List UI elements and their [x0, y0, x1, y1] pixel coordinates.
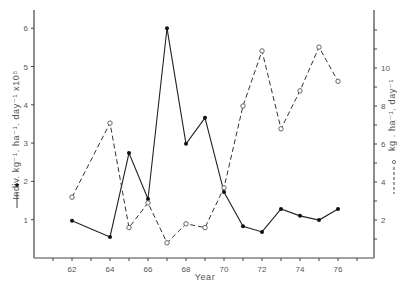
filled-data-point — [165, 26, 169, 30]
filled-data-point — [336, 207, 340, 211]
right-y-tick-label: 10 — [381, 64, 390, 73]
open-data-point — [108, 121, 112, 125]
open-data-point — [222, 186, 226, 190]
right-y-tick-label: 2 — [381, 216, 386, 225]
filled-data-point — [222, 190, 226, 194]
open-data-point — [165, 241, 169, 245]
series-points — [70, 26, 340, 245]
open-data-point — [241, 104, 245, 108]
x-tick-label: 76 — [334, 265, 343, 274]
line-chart: 6264666870727476123456246810 Year Indiv.… — [0, 0, 406, 286]
left-y-tick-label: 2 — [24, 177, 29, 186]
left-y-tick-label: 6 — [24, 24, 29, 33]
open-data-point — [279, 127, 283, 131]
left-y-tick-label: 1 — [24, 216, 29, 225]
legend-filled-dot-icon — [15, 183, 19, 187]
filled-data-point — [127, 151, 131, 155]
filled-data-point — [317, 218, 321, 222]
x-tick-label: 66 — [144, 265, 153, 274]
open-data-point — [127, 225, 131, 229]
open-data-point — [184, 222, 188, 226]
filled-data-point — [279, 207, 283, 211]
x-tick-label: 64 — [106, 265, 115, 274]
x-tick-label: 74 — [296, 265, 305, 274]
left-y-tick-label: 4 — [24, 101, 29, 110]
filled-data-point — [298, 214, 302, 218]
open-data-point — [203, 225, 207, 229]
right-axis-title: kg . ha⁻¹. day⁻¹ — [387, 79, 397, 151]
open-data-point — [260, 49, 264, 53]
axes — [34, 10, 374, 258]
x-tick-label: 68 — [182, 265, 191, 274]
filled-data-point — [241, 224, 245, 228]
left-y-tick-label: 3 — [24, 139, 29, 148]
x-tick-label: 72 — [258, 265, 267, 274]
filled-data-point — [108, 235, 112, 239]
open-data-point — [336, 79, 340, 83]
x-axis-title: Year — [195, 272, 216, 282]
filled-data-point — [203, 116, 207, 120]
open-data-point — [146, 201, 150, 205]
left-y-tick-label: 5 — [24, 63, 29, 72]
filled-data-point — [260, 230, 264, 234]
right-y-tick-label: 6 — [381, 140, 386, 149]
x-tick-label: 70 — [220, 265, 229, 274]
open-data-point — [70, 195, 74, 199]
series-lines — [72, 28, 338, 243]
right-y-tick-label: 4 — [381, 178, 386, 187]
legend-open-circle-icon — [392, 160, 395, 163]
tick-labels: 6264666870727476123456246810 — [24, 24, 391, 274]
right-y-tick-label: 8 — [381, 102, 386, 111]
x-tick-label: 62 — [68, 265, 77, 274]
open-data-point — [298, 89, 302, 93]
filled-data-point — [70, 219, 74, 223]
series-line-biomass — [72, 47, 338, 243]
open-data-point — [317, 45, 321, 49]
filled-data-point — [184, 142, 188, 146]
left-axis-title: Indiv. kg⁻¹. ha⁻¹. day⁻¹ x10⁵ — [11, 70, 21, 200]
